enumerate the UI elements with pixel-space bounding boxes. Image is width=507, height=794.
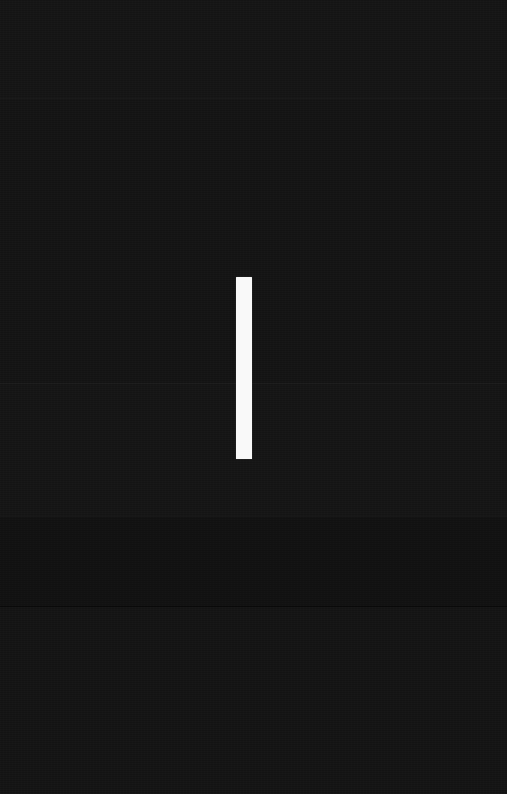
background-seam [0,516,507,517]
background-band [0,0,507,98]
background-seam [0,98,507,99]
background-band [0,516,507,606]
background-band [0,606,507,794]
background-seam [0,383,507,384]
text-cursor-caret[interactable] [236,277,252,459]
background-seam [0,606,507,607]
screen-canvas [0,0,507,794]
background-band [0,383,507,516]
background-band [0,98,507,383]
